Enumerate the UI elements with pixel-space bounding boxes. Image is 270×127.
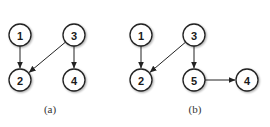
node-b-1: 1: [130, 24, 152, 46]
captions-layer: (a)(b): [44, 103, 202, 116]
node-label: 3: [71, 30, 77, 42]
node-label: 5: [191, 75, 197, 87]
node-b-2: 2: [130, 69, 152, 91]
subfigure-caption-b: (b): [189, 103, 202, 116]
edge-b-3-to-2: [150, 42, 185, 72]
node-b-4: 4: [236, 69, 258, 91]
node-a-3: 3: [63, 24, 85, 46]
node-a-2: 2: [9, 69, 31, 91]
node-a-1: 1: [9, 24, 31, 46]
node-label: 1: [138, 30, 144, 42]
subfigure-caption-a: (a): [44, 103, 57, 116]
node-b-3: 3: [183, 24, 205, 46]
node-label: 4: [71, 75, 78, 87]
node-label: 3: [191, 30, 197, 42]
node-label: 4: [244, 75, 251, 87]
node-b-5: 5: [183, 69, 205, 91]
node-label: 2: [138, 75, 144, 87]
edge-a-3-to-2: [29, 42, 65, 72]
directed-graph-figure: 123412354 (a)(b): [0, 0, 270, 127]
node-label: 1: [17, 30, 23, 42]
node-a-4: 4: [63, 69, 85, 91]
node-label: 2: [17, 75, 23, 87]
